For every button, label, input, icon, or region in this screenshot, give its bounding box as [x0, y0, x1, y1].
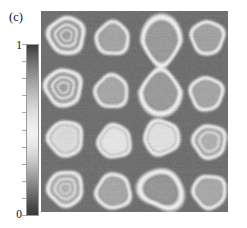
colorbar-tick	[22, 130, 27, 131]
colorbar-tick	[22, 215, 27, 216]
figure-panel-c: (c) 1 0	[0, 0, 247, 228]
colorbar-tick	[22, 95, 27, 96]
colorbar: 1 0	[14, 40, 40, 220]
colorbar-tick	[22, 61, 27, 62]
colorbar-tick	[22, 78, 27, 79]
colorbar-tick	[22, 198, 27, 199]
colorbar-tick	[22, 112, 27, 113]
scan-image	[41, 11, 228, 212]
panel-label: (c)	[9, 11, 23, 24]
scan-image-canvas	[41, 11, 228, 212]
colorbar-tick	[22, 164, 27, 165]
colorbar-max-label: 1	[16, 40, 22, 52]
colorbar-tick	[22, 181, 27, 182]
colorbar-gradient	[26, 44, 39, 216]
colorbar-tick	[22, 147, 27, 148]
colorbar-tick	[22, 44, 27, 45]
